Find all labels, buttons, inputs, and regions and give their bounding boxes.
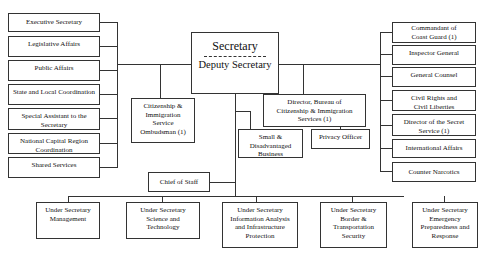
right-stub-5 [380,125,392,126]
right-stub-6 [380,148,392,149]
box-label: International Affairs [406,144,463,153]
coast-guard-box[interactable]: Commandant of Coast Guard (1) [392,22,476,43]
right-stub-1 [380,32,392,33]
box-label: Director, Bureau of Citizenship & Immigr… [264,98,365,124]
small-business-box[interactable]: Small & Disadvantaged Business [238,129,303,158]
chief-of-staff-box[interactable]: Chief of Staff [148,172,210,192]
chief-of-staff-connector [209,182,235,183]
us-science-technology-box[interactable]: Under Secretary Science and Technology [126,202,200,239]
under-secretary-connector [68,196,404,197]
small-business-hook [235,111,250,112]
box-label: Citizenship & Immigration Service Ombuds… [132,102,194,136]
legislative-affairs-box[interactable]: Legislative Affairs [8,36,100,57]
public-affairs-box[interactable]: Public Affairs [8,60,100,81]
box-label: State and Local Coordination [13,88,95,97]
deputy-secretary-label: Deputy Secretary [192,59,278,71]
ombudsman-box[interactable]: Citizenship & Immigration Service Ombuds… [131,98,195,143]
dashed-divider [204,56,266,57]
box-label: Civil Rights and Civil Liberties [393,94,475,111]
international-affairs-box[interactable]: International Affairs [392,139,476,158]
box-label: Counter Narcotics [408,168,459,177]
left-column-connector [117,22,118,168]
shared-services-box[interactable]: Shared Services [8,157,100,178]
left-stub-7 [100,167,117,168]
box-label: Commandant of Coast Guard (1) [393,24,475,41]
executive-secretary-box[interactable]: Executive Secretary [8,13,100,32]
privacy-officer-box[interactable]: Privacy Officer [311,129,370,149]
left-stub-6 [100,143,117,144]
box-label: Executive Secretary [26,18,82,27]
general-counsel-box[interactable]: General Counsel [392,67,476,87]
box-label: Special Assistant to the Secretary [9,112,99,129]
box-label: Under Secretary Management [37,206,99,223]
box-label: Shared Services [32,161,77,170]
state-local-coordination-box[interactable]: State and Local Coordination [8,84,100,105]
right-stub-3 [380,76,392,77]
secret-service-box[interactable]: Director of the Secret Service (1) [392,114,476,136]
box-label: Under Secretary Border & Transportation … [321,206,386,240]
secretary-box[interactable]: Secretary Deputy Secretary [191,32,279,94]
box-label: Under Secretary Science and Technology [127,206,199,232]
inspector-general-box[interactable]: Inspector General [392,45,476,65]
right-column-connector [380,32,381,172]
box-label: Privacy Officer [319,133,362,142]
left-stub-3 [100,70,117,71]
box-label: National Capital Region Coordination [9,137,99,154]
box-label: Inspector General [409,49,459,58]
director-bureau-connector [303,64,304,94]
right-stub-4 [380,100,392,101]
box-label: Director of the Secret Service (1) [393,118,475,135]
civil-rights-box[interactable]: Civil Rights and Civil Liberties [392,90,476,111]
small-business-connector [250,111,251,129]
ombudsman-connector [160,64,161,98]
national-capital-region-box[interactable]: National Capital Region Coordination [8,133,100,154]
center-trunk [235,93,236,196]
special-assistant-box[interactable]: Special Assistant to the Secretary [8,108,100,130]
left-stub-4 [100,94,117,95]
box-label: Under Secretary Emergency Preparedness a… [413,206,477,240]
us-emergency-preparedness-box[interactable]: Under Secretary Emergency Preparedness a… [412,202,478,248]
left-stub-2 [100,46,117,47]
box-label: Public Affairs [35,64,74,73]
right-stub-7 [380,171,392,172]
box-label: Chief of Staff [160,178,198,187]
us-border-transportation-box[interactable]: Under Secretary Border & Transportation … [320,202,387,248]
counter-narcotics-box[interactable]: Counter Narcotics [392,162,476,182]
box-label: Small & Disadvantaged Business [239,133,302,159]
box-label: General Counsel [411,71,458,80]
us-information-analysis-box[interactable]: Under Secretary Information Analysis and… [222,202,298,248]
left-stub-5 [100,118,117,119]
box-label: Under Secretary Information Analysis and… [223,206,297,240]
secretary-label: Secretary [192,39,278,53]
director-bureau-box[interactable]: Director, Bureau of Citizenship & Immigr… [263,94,366,127]
right-stub-2 [380,54,392,55]
us-management-box[interactable]: Under Secretary Management [36,202,100,239]
box-label: Legislative Affairs [28,40,80,49]
left-stub-1 [100,22,117,23]
